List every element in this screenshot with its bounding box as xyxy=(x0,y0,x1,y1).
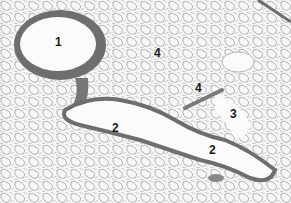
label-4a: 4 xyxy=(154,47,161,59)
label-4b: 4 xyxy=(195,82,202,94)
label-1: 1 xyxy=(55,36,62,48)
label-2a: 2 xyxy=(112,122,119,134)
tissue-drawing xyxy=(0,0,291,203)
label-2b: 2 xyxy=(209,144,216,156)
micrograph: 1 4 4 3 2 2 xyxy=(0,0,291,203)
label-3: 3 xyxy=(230,108,237,120)
